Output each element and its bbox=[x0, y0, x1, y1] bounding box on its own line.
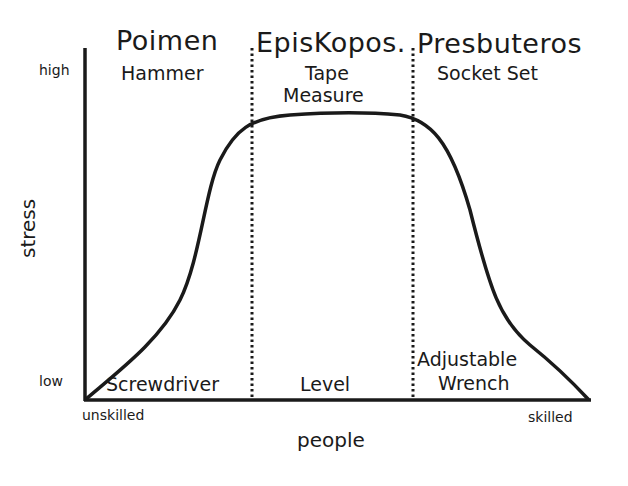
x-axis-title: people bbox=[297, 430, 365, 450]
tool-label-measure: Measure bbox=[283, 86, 364, 105]
diagram-canvas: Poimen EpisKopos. Presbuteros Hammer Tap… bbox=[0, 0, 628, 486]
tool-label-adjustable: Adjustable bbox=[417, 350, 517, 369]
tool-label-tape: Tape bbox=[305, 64, 349, 83]
region-title-episkopos: EpisKopos. bbox=[256, 29, 406, 56]
region-title-presbuteros: Presbuteros bbox=[417, 30, 582, 57]
tool-label-wrench: Wrench bbox=[438, 374, 510, 393]
tool-label-screwdriver: Screwdriver bbox=[106, 375, 219, 394]
y-axis-title: stress bbox=[18, 199, 38, 258]
tool-label-level: Level bbox=[300, 375, 350, 394]
y-axis-high-label: high bbox=[39, 63, 70, 77]
y-axis-low-label: low bbox=[39, 374, 63, 388]
x-axis-max-label: skilled bbox=[528, 410, 573, 424]
x-axis-min-label: unskilled bbox=[82, 408, 144, 422]
tool-label-socket-set: Socket Set bbox=[437, 64, 538, 83]
region-title-poimen: Poimen bbox=[116, 27, 218, 54]
tool-label-hammer: Hammer bbox=[121, 64, 203, 83]
